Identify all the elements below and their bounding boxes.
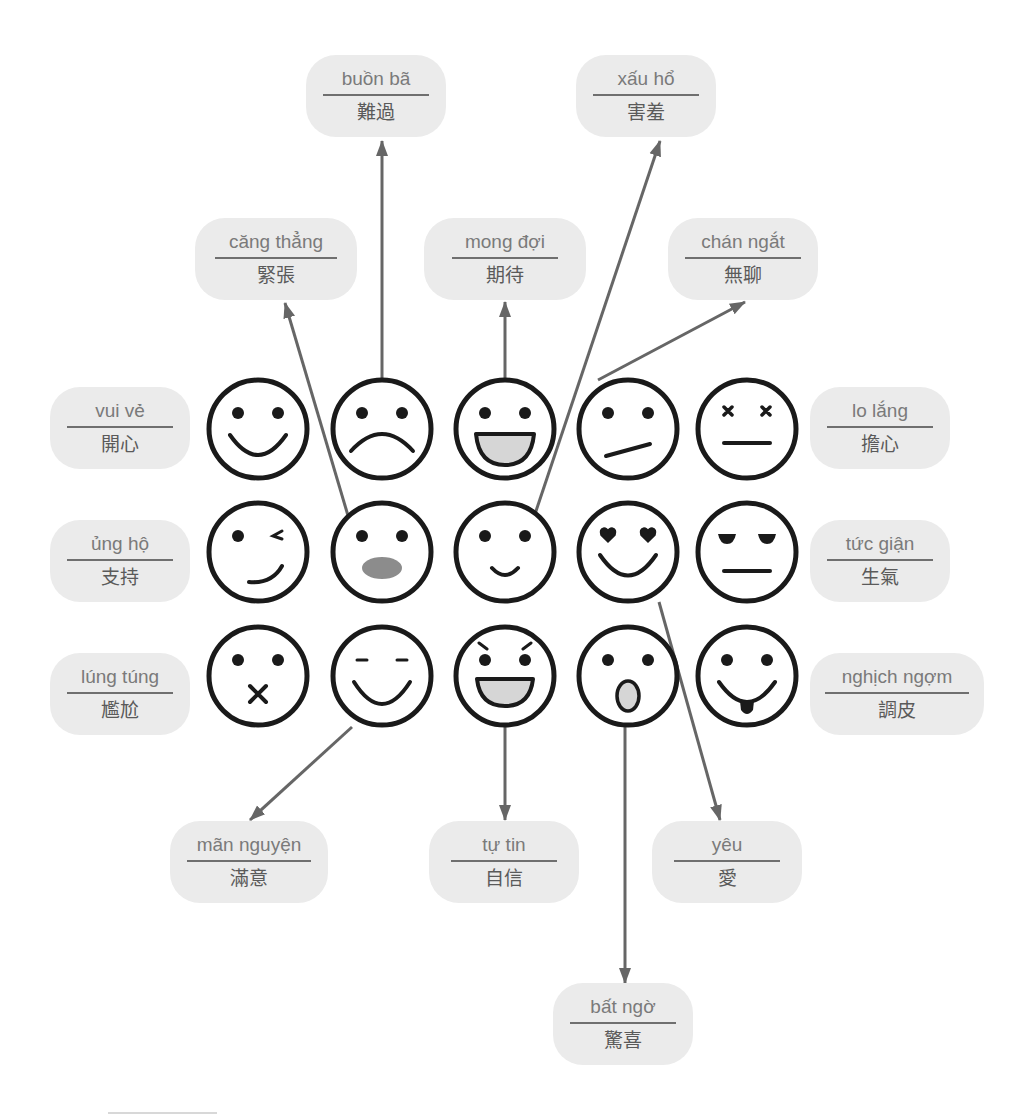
label-vietnamese: mãn nguyện xyxy=(191,834,308,859)
label-divider xyxy=(323,94,429,96)
label-vietnamese: chán ngắt xyxy=(695,231,790,256)
label-lung-tung: lúng túng 尷尬 xyxy=(50,653,190,735)
label-chinese: 擔心 xyxy=(861,432,899,456)
label-chinese: 害羞 xyxy=(627,100,665,124)
label-lo-lang: lo lắng 擔心 xyxy=(810,387,950,469)
determined-grin-face-icon xyxy=(456,627,554,725)
emotion-diagram: buồn bã 難過 xấu hổ 害羞 căng thẳng 緊張 mong … xyxy=(0,0,1024,1114)
label-chinese: 尷尬 xyxy=(101,698,139,722)
label-vietnamese: nghịch ngợm xyxy=(836,666,959,691)
label-chinese: 期待 xyxy=(486,263,524,287)
arrow-bored-to-chan-ngat xyxy=(598,302,745,380)
label-chinese: 調皮 xyxy=(878,698,916,722)
label-divider xyxy=(827,559,933,561)
label-vietnamese: mong đợi xyxy=(459,231,551,256)
label-man-nguyen: mãn nguyện 滿意 xyxy=(170,821,328,903)
x-mouth-face-icon xyxy=(209,627,307,725)
x-eyes-face-icon xyxy=(698,380,796,478)
label-ung-ho: ủng hộ 支持 xyxy=(50,520,190,602)
arrow-satisfied-to-man-nguyen xyxy=(250,727,352,820)
label-divider xyxy=(593,94,699,96)
label-divider xyxy=(685,257,801,259)
label-vietnamese: lo lắng xyxy=(846,400,914,425)
label-chinese: 支持 xyxy=(101,565,139,589)
label-nghich-ngom: nghịch ngợm 調皮 xyxy=(810,653,984,735)
label-divider xyxy=(452,257,558,259)
label-vietnamese: tự tin xyxy=(476,834,531,859)
label-chinese: 緊張 xyxy=(257,263,295,287)
small-smile-face-icon xyxy=(456,503,554,601)
smile-face-icon xyxy=(209,380,307,478)
label-vietnamese: xấu hổ xyxy=(611,68,680,93)
label-chinese: 無聊 xyxy=(724,263,762,287)
label-divider xyxy=(67,559,173,561)
label-chinese: 自信 xyxy=(485,866,523,890)
label-chinese: 開心 xyxy=(101,432,139,456)
label-vietnamese: căng thẳng xyxy=(223,231,329,256)
grin-face-icon xyxy=(456,380,554,478)
frown-face-icon xyxy=(333,380,431,478)
label-mong-doi: mong đợi 期待 xyxy=(424,218,586,300)
label-divider xyxy=(67,426,173,428)
label-vietnamese: bất ngờ xyxy=(584,996,661,1021)
label-yeu: yêu 愛 xyxy=(652,821,802,903)
label-vietnamese: vui vẻ xyxy=(89,400,151,425)
closed-eyes-smile-face-icon xyxy=(333,627,431,725)
label-divider xyxy=(674,860,780,862)
wink-face-icon xyxy=(209,503,307,601)
label-divider xyxy=(67,692,173,694)
open-oval-mouth-face-icon xyxy=(333,503,431,601)
label-vietnamese: lúng túng xyxy=(75,666,165,691)
label-chinese: 愛 xyxy=(718,866,737,890)
label-chan-ngat: chán ngắt 無聊 xyxy=(668,218,818,300)
label-vietnamese: tức giận xyxy=(840,533,921,558)
label-buon-ba: buồn bã 難過 xyxy=(306,55,446,137)
label-chinese: 滿意 xyxy=(230,866,268,890)
surprised-face-icon xyxy=(579,627,677,725)
label-divider xyxy=(215,257,337,259)
label-divider xyxy=(827,426,933,428)
label-divider xyxy=(570,1022,676,1024)
label-vietnamese: buồn bã xyxy=(336,68,417,93)
label-divider xyxy=(451,860,557,862)
label-bat-ngo: bất ngờ 驚喜 xyxy=(553,983,693,1065)
label-chinese: 生氣 xyxy=(861,565,899,589)
label-chinese: 驚喜 xyxy=(604,1028,642,1052)
label-chinese: 難過 xyxy=(357,100,395,124)
label-vui-ve: vui vẻ 開心 xyxy=(50,387,190,469)
label-divider xyxy=(187,860,311,862)
label-divider xyxy=(825,692,969,694)
skewed-mouth-face-icon xyxy=(579,380,677,478)
label-cang-thang: căng thẳng 緊張 xyxy=(195,218,357,300)
label-xau-ho: xấu hổ 害羞 xyxy=(576,55,716,137)
half-closed-eyes-face-icon xyxy=(698,503,796,601)
tongue-out-face-icon xyxy=(698,627,796,725)
label-tu-tin: tự tin 自信 xyxy=(429,821,579,903)
label-tuc-gian: tức giận 生氣 xyxy=(810,520,950,602)
heart-eyes-face-icon xyxy=(579,503,677,601)
label-vietnamese: yêu xyxy=(706,834,749,859)
label-vietnamese: ủng hộ xyxy=(85,533,155,558)
